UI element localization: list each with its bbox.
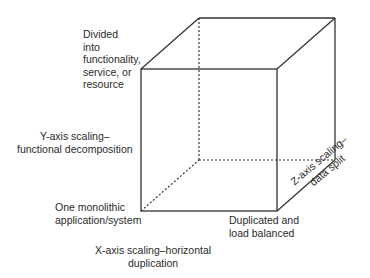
label-line: application/system <box>55 214 141 227</box>
cube-edge-hidden-depth <box>141 160 199 211</box>
cube-edge-top-left-depth <box>141 18 199 69</box>
label-one-monolithic-application: One monolithic application/system <box>55 201 141 226</box>
cube-front-face <box>141 69 277 211</box>
label-y-axis-scaling: Y-axis scaling– functional decomposition <box>17 130 133 155</box>
label-line: resource <box>83 78 141 91</box>
cube-edge-top-right-depth <box>277 18 335 69</box>
label-line: Duplicated and <box>229 214 299 227</box>
label-line: load balanced <box>229 227 299 240</box>
label-line: into <box>83 41 141 54</box>
label-x-axis-scaling: X-axis scaling–horizontal duplication <box>95 244 211 269</box>
label-line: X-axis scaling–horizontal <box>95 244 211 257</box>
label-duplicated-load-balanced: Duplicated and load balanced <box>229 214 299 239</box>
label-line: One monolithic <box>55 201 141 214</box>
label-line: Divided <box>83 28 141 41</box>
label-line: functionality, <box>83 53 141 66</box>
label-divided-into-functionality: Divided into functionality, service, or … <box>83 28 141 91</box>
label-line: service, or <box>83 66 141 79</box>
label-line: duplication <box>95 257 211 270</box>
label-line: Y-axis scaling– <box>17 130 133 143</box>
label-line: functional decomposition <box>17 143 133 156</box>
